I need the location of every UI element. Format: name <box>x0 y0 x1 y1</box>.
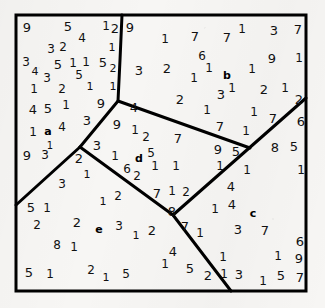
digit: 7 <box>296 271 304 284</box>
digit: 7 <box>191 30 199 43</box>
digit: 2 <box>59 41 67 53</box>
digit: 1 <box>100 196 107 207</box>
digit: 1 <box>84 169 91 180</box>
digit: 1 <box>295 52 303 64</box>
digit: 2 <box>176 93 184 106</box>
digit: 8 <box>271 141 279 154</box>
digit: 7 <box>181 220 189 233</box>
region-label-b: b <box>223 70 231 81</box>
digit: 1 <box>242 125 250 137</box>
digit: 2 <box>204 269 212 282</box>
digit: 1 <box>219 251 227 263</box>
region-label-a: a <box>44 126 51 137</box>
digit: 3 <box>93 139 101 152</box>
digit: 1 <box>82 56 90 68</box>
digit: 2 <box>58 83 66 95</box>
digit: 8 <box>53 239 61 251</box>
digit: 7 <box>216 120 224 133</box>
digit: 1 <box>103 272 110 283</box>
digit: 5 <box>147 147 155 159</box>
digit: 3 <box>83 114 91 127</box>
digit: 1 <box>190 72 198 84</box>
digit: 1 <box>168 185 176 197</box>
digit: 4 <box>29 103 37 116</box>
digit: 5 <box>290 140 298 153</box>
digit: 1 <box>111 150 119 162</box>
digit: 4 <box>228 198 236 211</box>
digit: 1 <box>46 268 54 280</box>
digit: 9 <box>268 52 276 65</box>
digit: 1 <box>29 126 37 138</box>
digit: 2 <box>87 264 95 276</box>
digit: 1 <box>87 81 94 92</box>
digit: 7 <box>294 23 302 36</box>
digit: 1 <box>228 82 236 94</box>
digit: 3 <box>235 268 243 281</box>
digit: 5 <box>99 56 107 69</box>
digit: 5 <box>186 262 194 275</box>
digit: 1 <box>102 20 110 32</box>
digit: 4 <box>58 121 66 133</box>
digit: 2 <box>182 186 190 198</box>
digit: 1 <box>70 241 78 253</box>
digit: 3 <box>47 43 55 55</box>
digit: 1 <box>43 202 51 214</box>
digit: 3 <box>217 88 225 101</box>
digit: 1 <box>297 164 305 176</box>
digit: 2 <box>114 190 122 202</box>
digit: 1 <box>238 23 246 35</box>
digit: 9 <box>214 143 222 156</box>
digit: 7 <box>261 224 269 237</box>
region-label-d: d <box>135 153 143 164</box>
digit: 7 <box>174 132 182 145</box>
digit: 2 <box>148 224 156 237</box>
digit: 3 <box>135 64 143 77</box>
digit: 9 <box>23 149 31 162</box>
digit: 4 <box>130 101 138 114</box>
digit: 9 <box>113 118 121 131</box>
digit: 1 <box>161 33 169 45</box>
digit: 5 <box>44 102 52 115</box>
digit: 1 <box>109 42 116 53</box>
digit: 2 <box>133 170 141 182</box>
digit: 1 <box>274 250 282 262</box>
digit: 3 <box>43 72 51 84</box>
digit: 1 <box>110 81 117 92</box>
digit: 3 <box>234 223 242 236</box>
digit: 3 <box>58 178 66 190</box>
digit: 5 <box>64 20 72 33</box>
digit: 5 <box>54 58 62 71</box>
digit: 1 <box>30 83 38 95</box>
digit: 9 <box>23 21 31 34</box>
digit: 6 <box>297 115 305 128</box>
digit: 3 <box>22 56 30 68</box>
digit: 2 <box>75 152 83 165</box>
digit: 1 <box>216 160 224 172</box>
digit: 1 <box>243 164 251 176</box>
digit: 9 <box>97 97 105 110</box>
digit: 1 <box>250 106 258 118</box>
digit: 6 <box>296 235 304 248</box>
digit: 4 <box>32 66 39 77</box>
region-label-c: c <box>250 208 257 219</box>
digit: 2 <box>73 216 81 229</box>
digit: 1 <box>205 62 213 74</box>
digit: 7 <box>153 187 161 200</box>
digit: 3 <box>115 220 123 232</box>
digit: 8 <box>168 205 176 218</box>
digit: 1 <box>62 99 70 111</box>
digit: 9 <box>295 252 303 265</box>
region-label-e: e <box>95 224 102 235</box>
digit: 5 <box>25 266 33 279</box>
digit: 1 <box>211 203 219 215</box>
digit: 5 <box>232 145 240 158</box>
digit: 1 <box>220 268 228 280</box>
digit: 2 <box>260 83 268 96</box>
digit: 4 <box>169 245 177 258</box>
digit: 4 <box>78 32 86 44</box>
digit: 2 <box>33 219 41 231</box>
digit: 1 <box>161 258 169 270</box>
digit: 9 <box>126 21 134 34</box>
digit: 1 <box>281 82 289 94</box>
digit: 5 <box>277 269 285 282</box>
